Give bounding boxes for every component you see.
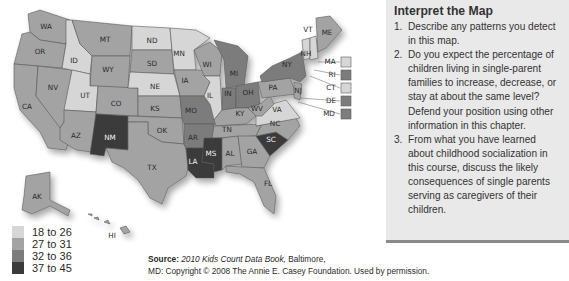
callout-swatch-md xyxy=(341,109,351,119)
svg-text:MI: MI xyxy=(230,69,238,78)
svg-text:WY: WY xyxy=(102,65,114,74)
svg-text:OH: OH xyxy=(242,88,253,97)
callout-swatch-ri xyxy=(341,70,351,80)
svg-text:TX: TX xyxy=(146,163,156,172)
callout-label-ma: MA xyxy=(324,57,335,66)
svg-text:IA: IA xyxy=(181,76,188,85)
svg-text:MT: MT xyxy=(100,35,111,44)
callout-swatch-ma xyxy=(341,57,351,67)
svg-text:VA: VA xyxy=(272,105,281,114)
svg-text:OK: OK xyxy=(157,126,168,135)
svg-text:AK: AK xyxy=(32,192,42,201)
svg-text:NV: NV xyxy=(48,83,58,92)
legend-item: 32 to 36 xyxy=(12,250,72,262)
interpret-the-map-box: Interpret the Map 1. Describe any patter… xyxy=(386,0,569,243)
svg-text:ND: ND xyxy=(147,36,158,45)
svg-text:WA: WA xyxy=(40,22,52,31)
svg-text:NE: NE xyxy=(150,82,160,91)
source-citation: Source: 2010 Kids Count Data Book, Balti… xyxy=(148,253,429,277)
state-hi xyxy=(120,226,130,234)
svg-text:NM: NM xyxy=(104,133,116,142)
legend-label: 27 to 31 xyxy=(32,238,72,250)
svg-text:MN: MN xyxy=(173,49,185,58)
legend-label: 18 to 26 xyxy=(32,226,72,238)
legend-swatch xyxy=(12,250,24,262)
question-text: From what you have learned about childho… xyxy=(408,133,563,218)
callout-swatch-ct xyxy=(341,83,351,93)
svg-text:NC: NC xyxy=(270,119,280,128)
svg-text:NJ: NJ xyxy=(294,86,302,95)
svg-text:LA: LA xyxy=(188,157,197,166)
question-item: 2. Do you expect the percentage of child… xyxy=(394,48,563,133)
legend-item: 37 to 45 xyxy=(12,262,72,274)
svg-text:WI: WI xyxy=(202,60,211,69)
legend-item: 18 to 26 xyxy=(12,226,72,238)
svg-text:AR: AR xyxy=(188,133,198,142)
svg-text:AZ: AZ xyxy=(71,131,81,140)
svg-text:IL: IL xyxy=(207,91,213,100)
svg-text:KS: KS xyxy=(150,104,160,113)
question-text: Do you expect the percentage of children… xyxy=(408,48,563,133)
svg-text:TN: TN xyxy=(221,125,232,134)
svg-text:FL: FL xyxy=(264,179,272,188)
callout-label-md: MD xyxy=(323,109,335,118)
question-number: 3. xyxy=(394,133,408,218)
question-number: 1. xyxy=(394,20,408,48)
us-choropleth-map: WA OR CA NV ID MT WY UT AZ CO NM ND SD N… xyxy=(0,0,400,250)
legend-swatch xyxy=(12,226,24,238)
svg-text:AL: AL xyxy=(226,149,235,158)
svg-text:ID: ID xyxy=(70,56,78,65)
svg-text:IN: IN xyxy=(224,89,232,98)
source-line-1: Source: 2010 Kids Count Data Book, Balti… xyxy=(148,253,429,265)
state-hi xyxy=(88,214,92,216)
svg-text:PA: PA xyxy=(269,83,278,92)
legend-item: 27 to 31 xyxy=(12,238,72,250)
svg-text:MS: MS xyxy=(206,149,217,158)
svg-text:WV: WV xyxy=(251,104,263,113)
callout-label-ri: RI xyxy=(328,70,335,79)
svg-text:OR: OR xyxy=(35,47,46,56)
svg-text:KY: KY xyxy=(236,109,245,118)
legend-label: 37 to 45 xyxy=(32,262,72,274)
svg-text:SC: SC xyxy=(266,135,276,144)
state-ak xyxy=(22,172,70,216)
state-ks xyxy=(138,96,182,118)
svg-text:UT: UT xyxy=(80,91,90,100)
state-hi xyxy=(94,217,99,220)
svg-text:SD: SD xyxy=(147,59,158,68)
callout-swatch-de xyxy=(341,96,351,106)
svg-text:GA: GA xyxy=(247,147,258,156)
legend-swatch xyxy=(12,262,24,274)
question-number: 2. xyxy=(394,48,408,133)
state-fl xyxy=(226,166,276,214)
legend-swatch xyxy=(12,238,24,250)
svg-text:CA: CA xyxy=(22,102,32,111)
callout-label-de: DE xyxy=(326,96,337,105)
question-item: 1. Describe any patterns you detect in t… xyxy=(394,20,563,48)
state-hi xyxy=(104,220,110,224)
svg-text:VT: VT xyxy=(303,25,313,34)
question-item: 3. From what you have learned about chil… xyxy=(394,133,563,218)
svg-text:MO: MO xyxy=(185,106,197,115)
callout-label-ct: CT xyxy=(326,83,336,92)
source-line-2: MD: Copyright © 2008 The Annie E. Casey … xyxy=(148,265,429,277)
legend-label: 32 to 36 xyxy=(32,250,72,262)
svg-text:CO: CO xyxy=(111,99,122,108)
question-text: Describe any patterns you detect in this… xyxy=(408,20,563,48)
us-map: WA OR CA NV ID MT WY UT AZ CO NM ND SD N… xyxy=(0,0,400,250)
svg-text:ME: ME xyxy=(322,28,333,37)
map-legend: 18 to 26 27 to 31 32 to 36 37 to 45 xyxy=(12,226,72,274)
source-location: Baltimore, xyxy=(286,254,326,264)
source-label: Source: xyxy=(148,254,179,264)
svg-text:NH: NH xyxy=(301,49,312,58)
svg-text:HI: HI xyxy=(108,231,116,240)
source-title: 2010 Kids Count Data Book, xyxy=(181,254,286,264)
interpret-title: Interpret the Map xyxy=(394,4,563,18)
svg-text:NY: NY xyxy=(282,60,292,69)
